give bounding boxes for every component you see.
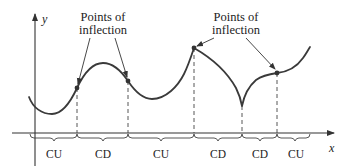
x-axis-label: x: [328, 141, 335, 155]
region-label: CD: [252, 148, 268, 160]
region-label: CU: [153, 148, 170, 160]
inflection-point: [126, 79, 131, 84]
brace-icon: [30, 134, 77, 141]
region-label: CD: [95, 148, 111, 160]
region-label: CU: [46, 148, 63, 160]
concavity-diagram: y x Points of inflection Points: [0, 0, 344, 167]
function-curve: [29, 47, 310, 114]
arrow-icon: [246, 38, 275, 69]
brace-icon: [277, 134, 310, 141]
concavity-labels: CU CD CU CD CD CU: [46, 148, 305, 160]
annotation-line1: Points of: [214, 10, 260, 24]
inflection-point: [275, 71, 280, 76]
annotation-line1: Points of: [81, 10, 127, 24]
inflection-point: [75, 86, 80, 91]
brace-icon: [128, 134, 194, 141]
annotation-line2: inflection: [212, 23, 261, 37]
arrow-icon: [197, 38, 214, 46]
annotation-right: Points of inflection: [197, 10, 275, 69]
region-label: CU: [288, 148, 305, 160]
interval-braces: [30, 134, 310, 141]
y-axis-label: y: [41, 12, 48, 26]
inflection-point: [192, 46, 197, 51]
annotation-line2: inflection: [79, 23, 128, 37]
brace-icon: [77, 134, 128, 141]
brace-icon: [242, 134, 277, 141]
diagram-canvas: y x Points of inflection Points: [0, 0, 344, 167]
region-label: CD: [210, 148, 226, 160]
brace-icon: [194, 134, 242, 141]
